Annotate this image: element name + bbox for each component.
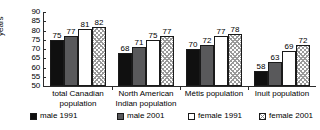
legend-label: male 2001	[127, 112, 164, 120]
bar: 63	[268, 62, 282, 86]
legend-label: male 1991	[40, 112, 77, 120]
bar: 68	[118, 53, 132, 86]
y-axis-title: years	[0, 16, 5, 36]
bar-value-label: 81	[81, 21, 90, 29]
legend-item[interactable]: male 2001	[117, 112, 164, 120]
bar: 81	[78, 29, 92, 86]
bar: 69	[282, 51, 296, 86]
y-tick-label: 85	[22, 17, 40, 25]
legend-swatch-icon	[259, 113, 266, 120]
bar-value-label: 72	[203, 37, 212, 45]
bar: 75	[50, 40, 64, 86]
category-label: total Canadian population	[44, 89, 112, 108]
legend-item[interactable]: female 1991	[188, 112, 242, 120]
legend-label: female 2001	[269, 112, 313, 120]
y-tick-label: 80	[22, 27, 40, 35]
bar: 72	[296, 45, 310, 86]
y-tick-label: 60	[22, 64, 40, 72]
bar-value-label: 75	[53, 32, 62, 40]
bar-chart: years 505560657075808590 757781826871757…	[0, 0, 320, 130]
legend-item[interactable]: male 1991	[30, 112, 77, 120]
legend-label: female 1991	[198, 112, 242, 120]
y-tick-label: 55	[22, 73, 40, 81]
y-tick-label: 65	[22, 54, 40, 62]
bar-value-label: 68	[121, 45, 130, 53]
legend-swatch-icon	[117, 113, 124, 120]
y-tick-label: 90	[22, 8, 40, 16]
bar-value-label: 77	[217, 28, 226, 36]
y-tick-label: 70	[22, 45, 40, 53]
y-tick-label: 75	[22, 36, 40, 44]
bar: 82	[92, 27, 106, 86]
bar-value-label: 78	[231, 26, 240, 34]
legend-swatch-icon	[30, 113, 37, 120]
bar-value-label: 58	[257, 63, 266, 71]
y-tick-label: 50	[22, 82, 40, 90]
bar-value-label: 77	[67, 28, 76, 36]
y-tick-mark	[43, 86, 46, 87]
bar: 70	[186, 49, 200, 86]
chart-legend: male 1991male 2001female 1991female 2001	[0, 112, 320, 128]
bar-value-label: 63	[271, 54, 280, 62]
category-label: Inuit population	[248, 89, 316, 99]
bar-value-label: 75	[149, 32, 158, 40]
bar-value-label: 70	[189, 41, 198, 49]
bar-value-label: 71	[135, 39, 144, 47]
category-label: Métis population	[180, 89, 248, 99]
bar: 77	[214, 36, 228, 86]
plot-area: 75778182687175777072777858636972	[44, 12, 316, 86]
bar: 58	[254, 71, 268, 86]
legend-swatch-icon	[188, 113, 195, 120]
bar: 72	[200, 45, 214, 86]
bar: 77	[160, 36, 174, 86]
bar-value-label: 77	[163, 28, 172, 36]
bar: 77	[64, 36, 78, 86]
bar: 71	[132, 47, 146, 86]
bar: 75	[146, 40, 160, 86]
category-label: North American Indian population	[112, 89, 180, 108]
bar-value-label: 72	[299, 37, 308, 45]
bar: 78	[228, 34, 242, 86]
bar-value-label: 82	[95, 19, 104, 27]
bar-value-label: 69	[285, 43, 294, 51]
legend-item[interactable]: female 2001	[259, 112, 313, 120]
